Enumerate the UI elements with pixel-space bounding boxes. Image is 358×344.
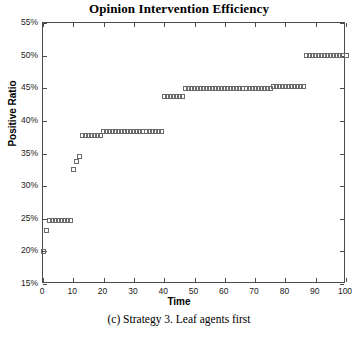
x-tick-top [104, 23, 105, 27]
y-tick [43, 88, 47, 89]
x-tick [164, 278, 165, 282]
y-tick-right [340, 284, 344, 285]
x-tick-label: 0 [27, 286, 57, 296]
y-tick-right [340, 154, 344, 155]
data-point [68, 218, 73, 223]
x-tick-top [73, 23, 74, 27]
x-tick-label: 80 [269, 286, 299, 296]
x-tick [195, 278, 196, 282]
plot-area [42, 22, 345, 283]
data-point [344, 53, 349, 58]
x-tick-top [134, 23, 135, 27]
y-tick-right [340, 251, 344, 252]
x-tick-top [255, 23, 256, 27]
x-tick-top [285, 23, 286, 27]
figure-caption: (c) Strategy 3. Leaf agents first [0, 313, 358, 325]
x-tick-label: 90 [300, 286, 330, 296]
y-tick-right [340, 186, 344, 187]
x-tick-label: 30 [118, 286, 148, 296]
x-tick-label: 70 [239, 286, 269, 296]
x-tick-label: 20 [88, 286, 118, 296]
x-tick-label: 100 [330, 286, 358, 296]
x-tick [225, 278, 226, 282]
data-point [159, 129, 164, 134]
data-point [180, 94, 185, 99]
x-tick [73, 278, 74, 282]
y-tick-label: 55% [0, 17, 38, 27]
x-tick-label: 40 [148, 286, 178, 296]
x-tick-label: 50 [179, 286, 209, 296]
data-point [74, 159, 79, 164]
x-tick [255, 278, 256, 282]
x-tick-label: 60 [209, 286, 239, 296]
y-tick [43, 154, 47, 155]
x-tick-top [195, 23, 196, 27]
x-tick-top [346, 23, 347, 27]
y-tick-right [340, 121, 344, 122]
data-point [71, 167, 76, 172]
x-tick [43, 278, 44, 282]
x-tick [134, 278, 135, 282]
y-tick-label: 20% [0, 245, 38, 255]
x-tick [104, 278, 105, 282]
y-tick-right [340, 23, 344, 24]
y-tick-right [340, 88, 344, 89]
y-tick-label: 25% [0, 213, 38, 223]
x-tick-top [164, 23, 165, 27]
x-tick [346, 278, 347, 282]
x-tick-top [316, 23, 317, 27]
y-tick [43, 121, 47, 122]
figure-container: Opinion Intervention Efficiency 15%20%25… [0, 0, 358, 344]
data-point [77, 154, 82, 159]
chart-title: Opinion Intervention Efficiency [0, 1, 358, 17]
x-tick [316, 278, 317, 282]
data-point [41, 249, 46, 254]
y-tick [43, 284, 47, 285]
y-tick [43, 186, 47, 187]
x-tick-top [43, 23, 44, 27]
data-point [301, 84, 306, 89]
y-tick [43, 56, 47, 57]
x-axis-title: Time [0, 296, 358, 307]
x-tick-label: 10 [57, 286, 87, 296]
y-tick-right [340, 219, 344, 220]
y-axis-title: Positive Ratio [7, 44, 18, 184]
x-tick [285, 278, 286, 282]
x-tick-top [225, 23, 226, 27]
data-point [44, 228, 49, 233]
